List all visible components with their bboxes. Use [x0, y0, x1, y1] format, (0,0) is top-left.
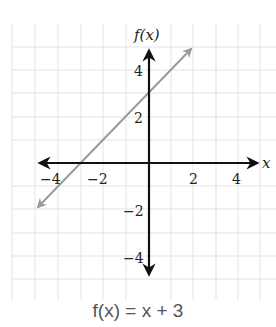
y-tick-label: 2: [134, 110, 143, 126]
x-tick-label: 4: [232, 171, 241, 187]
x-axis-label: x: [262, 154, 271, 172]
x-tick-label: −4: [40, 171, 61, 187]
y-axis-label: f(x): [133, 26, 160, 44]
y-tick-label: −2: [123, 203, 144, 219]
x-tick-label: −2: [87, 171, 108, 187]
y-tick-label: 4: [134, 63, 143, 79]
function-line: [38, 49, 191, 207]
coordinate-plane: f(x) x −4 −2 2 4 4 2 −2 −4: [0, 0, 276, 300]
y-tick-label: −4: [123, 250, 144, 266]
x-tick-label: 2: [189, 171, 198, 187]
function-caption: f(x) = x + 3: [0, 300, 276, 322]
